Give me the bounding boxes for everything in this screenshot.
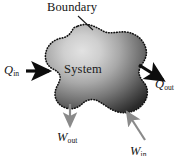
q-in-subscript: in [13,69,19,78]
system-label: System [64,63,102,76]
boundary-label: Boundary [47,1,97,14]
w-out-symbol: W [57,130,67,144]
q-in-symbol: Q [4,63,13,77]
w-in-label: Win [130,145,146,156]
w-out-subscript: out [68,136,78,145]
w-in-symbol: W [130,144,140,156]
q-out-label: Qout [155,78,174,91]
w-in-subscript: in [141,150,147,156]
w-in-arrow [127,112,145,140]
w-out-label: Wout [57,131,77,144]
q-in-label: Qin [4,64,19,77]
system-boundary-diagram: Boundary System Qin Qout Wout Win [0,0,189,156]
q-out-symbol: Q [155,77,164,91]
q-out-subscript: out [164,83,174,92]
